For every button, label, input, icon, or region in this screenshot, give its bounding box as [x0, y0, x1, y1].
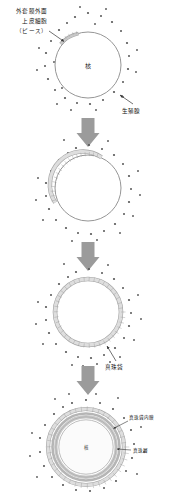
gonad-leader-line	[120, 95, 133, 104]
gonad-label: 生殖腺	[122, 107, 140, 115]
stage-2-group	[35, 139, 141, 242]
nacre-layer-label: 真珠層	[133, 447, 148, 454]
figure-canvas: 核 外套膜外面 上皮細胞 （ピース） 生殖腺	[0, 0, 173, 495]
arrow-3	[77, 366, 100, 395]
nucleus-label-stage-1: 核	[85, 62, 91, 70]
mantle-epithelium-leader-line	[49, 31, 64, 42]
arrow-2	[77, 242, 100, 271]
stage-3-group: 真珠袋	[35, 263, 142, 371]
pearl-formation-figure: 核 外套膜外面 上皮細胞 （ピース） 生殖腺	[0, 0, 173, 495]
mantle-epithelium-label: 外套膜外面 上皮細胞 （ピース）	[16, 7, 64, 42]
arrow-1	[77, 118, 100, 147]
mantle-epithelium-line-1: 外套膜外面	[16, 7, 47, 15]
stage-1-group: 核	[36, 6, 138, 111]
mantle-epithelium-line-2: 上皮細胞	[22, 17, 47, 25]
pearl-sac-label: 真珠袋	[105, 363, 123, 371]
stage-4-group: 核 真珠袋内膜 真珠層	[29, 393, 154, 492]
gonad-label-group: 生殖腺	[120, 95, 140, 115]
pearl-sac-label-group: 真珠袋	[105, 346, 123, 371]
nucleus-circle-stage-2	[55, 155, 121, 221]
pearl-sac-inner-membrane-label: 真珠袋内膜	[129, 414, 155, 421]
mantle-epithelium-line-3: （ピース）	[16, 28, 47, 34]
